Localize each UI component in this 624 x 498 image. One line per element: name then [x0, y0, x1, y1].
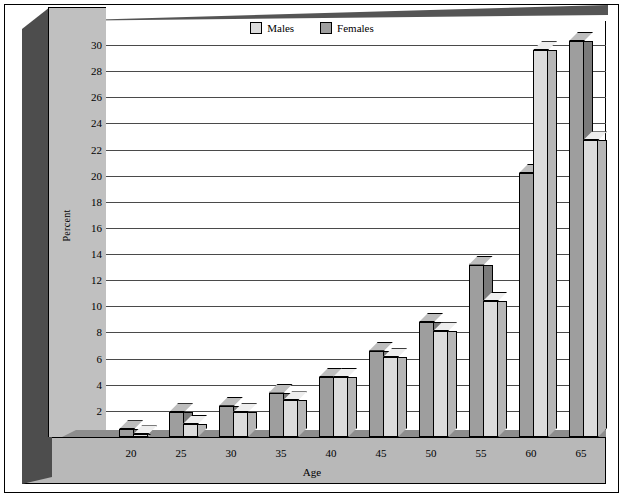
x-tick-label: 45 — [376, 447, 387, 459]
bar-front — [183, 424, 198, 437]
bar-top — [169, 403, 193, 412]
x-tick-label: 60 — [526, 447, 537, 459]
x-tick-label: 20 — [126, 447, 137, 459]
bar-males-40 — [333, 377, 348, 437]
legend-swatch-icon — [250, 22, 262, 34]
bar-females-55 — [469, 265, 484, 437]
bar-front — [383, 357, 398, 437]
bar-females-40 — [319, 377, 334, 437]
bar-males-35 — [283, 400, 298, 437]
bar-side — [498, 301, 507, 437]
legend-label: Females — [337, 22, 374, 34]
bar-side — [198, 424, 207, 437]
bar-top — [533, 41, 557, 50]
bar-top — [369, 342, 393, 351]
bar-front — [133, 434, 148, 437]
x-tick-label: 25 — [176, 447, 187, 459]
bar-front — [119, 429, 134, 437]
bar-top — [119, 420, 143, 429]
bar-front — [219, 406, 234, 437]
bar-females-60 — [519, 173, 534, 437]
bar-top — [469, 256, 493, 265]
bar-side — [598, 140, 607, 437]
bar-front — [569, 41, 584, 437]
legend-swatch-icon — [320, 22, 332, 34]
bar-side — [398, 357, 407, 437]
bar-front — [469, 265, 484, 437]
legend-item-females: Females — [320, 22, 374, 34]
bar-side — [248, 412, 257, 437]
bar-front — [533, 50, 548, 437]
bar-front — [369, 351, 384, 437]
bar-front — [169, 412, 184, 437]
bar-front — [319, 377, 334, 437]
bar-front — [283, 400, 298, 437]
x-tick-label: 40 — [326, 447, 337, 459]
chart-root: 024681012141618202224262830 Percent 2025… — [0, 0, 624, 498]
x-tick-label: 65 — [576, 447, 587, 459]
bar-front — [483, 301, 498, 437]
bar-males-55 — [483, 301, 498, 437]
chart-3d-stage: 024681012141618202224262830 Percent 2025… — [0, 0, 624, 498]
bar-females-45 — [369, 351, 384, 437]
bar-females-30 — [219, 406, 234, 437]
x-tick-label: 50 — [426, 447, 437, 459]
bar-front — [419, 322, 434, 437]
bar-females-20 — [119, 429, 134, 437]
bars-layer — [0, 0, 624, 498]
x-tick-label: 55 — [476, 447, 487, 459]
bar-males-20 — [133, 434, 148, 437]
bar-males-25 — [183, 424, 198, 437]
bar-females-65 — [569, 41, 584, 437]
bar-top — [219, 397, 243, 406]
bar-top — [269, 384, 293, 393]
bar-front — [433, 331, 448, 437]
legend-label: Males — [267, 22, 294, 34]
bar-front — [233, 412, 248, 437]
x-tick-label: 35 — [276, 447, 287, 459]
bar-side — [148, 434, 157, 437]
bar-males-60 — [533, 50, 548, 437]
bar-males-30 — [233, 412, 248, 437]
bar-front — [519, 173, 534, 437]
x-tick-label: 30 — [226, 447, 237, 459]
bar-side — [548, 50, 557, 437]
bar-females-50 — [419, 322, 434, 437]
bar-side — [298, 400, 307, 437]
bar-females-25 — [169, 412, 184, 437]
bar-males-45 — [383, 357, 398, 437]
chart-legend: MalesFemales — [0, 22, 624, 34]
bar-front — [269, 393, 284, 437]
bar-males-65 — [583, 140, 598, 437]
bar-top — [419, 313, 443, 322]
bar-front — [583, 140, 598, 437]
bar-females-35 — [269, 393, 284, 437]
legend-item-males: Males — [250, 22, 294, 34]
bar-front — [333, 377, 348, 437]
bar-males-50 — [433, 331, 448, 437]
bar-side — [348, 377, 357, 437]
x-axis-title: Age — [0, 466, 624, 478]
bar-side — [448, 331, 457, 437]
